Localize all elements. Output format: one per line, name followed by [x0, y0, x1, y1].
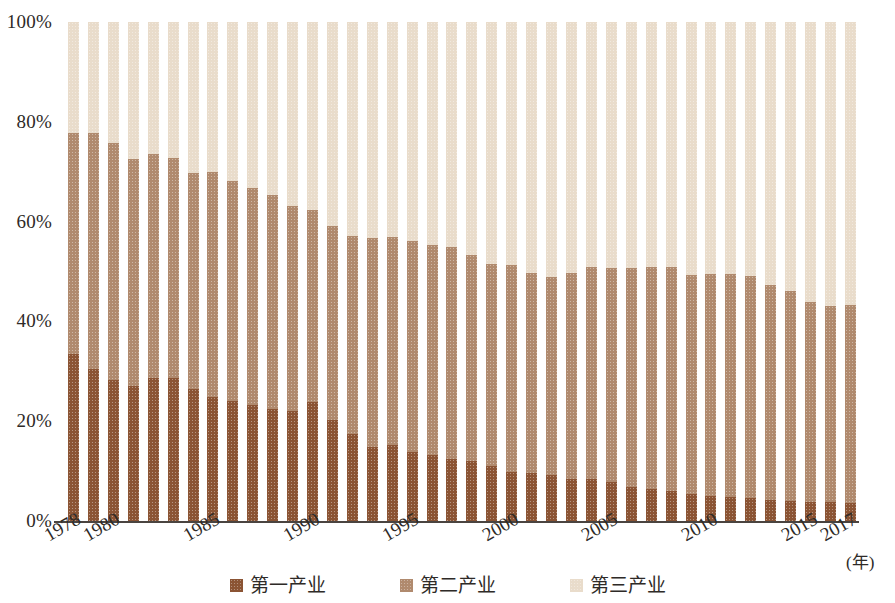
- stacked-bar-chart: 0%20%40%60%80%100% 197819801985199019952…: [0, 0, 895, 603]
- legend-label: 第二产业: [420, 576, 496, 595]
- x-axis-tick-label: 1985: [180, 509, 222, 544]
- legend-label: 第一产业: [250, 576, 326, 595]
- x-axis-tick-label: 1995: [379, 509, 421, 544]
- x-axis-tick-label: 1980: [80, 509, 122, 544]
- legend-swatch-icon: [400, 579, 413, 592]
- x-axis-tick-label: 2017: [817, 509, 859, 544]
- legend-swatch-icon: [230, 579, 243, 592]
- x-axis-tick-label: 2015: [778, 509, 820, 544]
- x-axis-tick-label: 2005: [578, 509, 620, 544]
- x-axis-tick-label: 2010: [678, 509, 720, 544]
- chart-legend: 第一产业第二产业第三产业: [0, 576, 895, 595]
- legend-item-2[interactable]: 第二产业: [400, 576, 496, 595]
- legend-swatch-icon: [570, 579, 583, 592]
- x-axis-tick-label: 1990: [280, 509, 322, 544]
- x-axis: 1978198019851990199520002005201020152017: [0, 0, 895, 603]
- legend-item-1[interactable]: 第一产业: [230, 576, 326, 595]
- legend-item-3[interactable]: 第三产业: [570, 576, 666, 595]
- legend-label: 第三产业: [590, 576, 666, 595]
- x-axis-unit-label: (年): [846, 548, 874, 573]
- x-axis-tick-label: 1978: [41, 509, 83, 544]
- x-axis-tick-label: 2000: [479, 509, 521, 544]
